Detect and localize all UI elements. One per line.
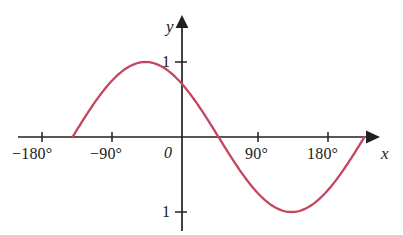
coordinate-plane-svg xyxy=(0,0,403,235)
x-tick-label-neg180: −180° xyxy=(12,146,52,162)
x-tick-label-pos180: 180° xyxy=(307,146,338,162)
x-axis-arrow-icon xyxy=(366,131,380,144)
y-tick-label-pos1: 1 xyxy=(162,54,170,70)
x-axis-label: x xyxy=(381,145,389,162)
origin-label: 0 xyxy=(164,145,172,161)
y-axis-label: y xyxy=(166,18,174,35)
x-tick-label-neg90: −90° xyxy=(90,146,122,162)
x-tick-label-pos90: 90° xyxy=(245,146,268,162)
y-axis-arrow-icon xyxy=(176,15,189,28)
sine-graph-figure: −180° −90° 90° 180° 0 1 1 y x xyxy=(0,0,403,235)
y-tick-label-neg1: 1 xyxy=(162,204,170,220)
